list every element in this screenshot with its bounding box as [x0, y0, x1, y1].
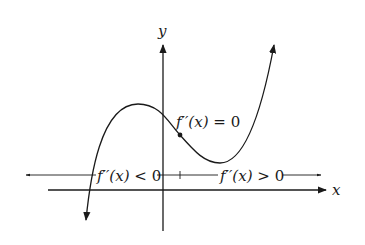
concavity-diagram: y x f′′(x) = 0 f′′(x) < 0 f′′(x) > 0 — [0, 0, 365, 245]
x-axis-label: x — [332, 181, 341, 199]
concave-up-label: f′′(x) > 0 — [219, 167, 284, 185]
y-axis-label: y — [157, 22, 167, 40]
concave-down-label: f′′(x) < 0 — [96, 167, 161, 185]
inflection-label: f′′(x) = 0 — [175, 113, 240, 131]
cubic-curve — [86, 45, 274, 220]
inflection-point — [178, 133, 183, 138]
